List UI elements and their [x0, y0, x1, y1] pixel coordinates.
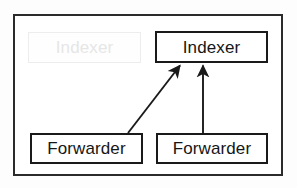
- diagram-canvas: Indexer Indexer Forwarder Forwarder: [0, 0, 297, 188]
- node-forwarder-left-label: Forwarder: [47, 140, 125, 157]
- node-forwarder-right-label: Forwarder: [173, 140, 251, 157]
- node-indexer-ghost-label: Indexer: [56, 39, 113, 56]
- node-forwarder-right[interactable]: Forwarder: [156, 133, 268, 164]
- node-indexer-label: Indexer: [183, 39, 240, 56]
- node-indexer[interactable]: Indexer: [155, 31, 268, 63]
- node-forwarder-left[interactable]: Forwarder: [30, 133, 143, 164]
- node-indexer-ghost[interactable]: Indexer: [28, 32, 141, 63]
